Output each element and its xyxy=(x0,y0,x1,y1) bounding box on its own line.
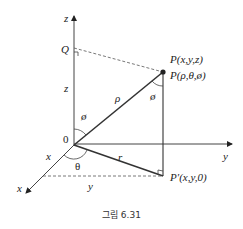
r-label: r xyxy=(118,151,123,163)
origin-label: 0 xyxy=(63,133,69,145)
figure-caption: 그림 6.31 xyxy=(102,209,141,220)
phi-origin-label: ø xyxy=(80,110,87,122)
phi-p-label: ø xyxy=(149,90,156,102)
right-angle-q xyxy=(74,52,78,56)
x-axis-label: x xyxy=(16,182,22,194)
q-to-p-dashed xyxy=(74,48,163,72)
z-height-label: z xyxy=(63,82,69,94)
y-length-label: y xyxy=(87,180,93,192)
rho-segment xyxy=(74,72,163,145)
p-spherical-label: P(ρ,θ,ø) xyxy=(169,69,206,82)
phi-arc-p xyxy=(152,81,163,86)
point-p xyxy=(160,69,165,74)
q-label: Q xyxy=(61,43,69,55)
p-cartesian-label: P(x,y,z) xyxy=(169,53,203,66)
rho-label: ρ xyxy=(114,92,120,104)
spherical-coordinates-diagram: z Q z P(x,y,z) P(ρ,θ,ø) ρ ø ø 0 x θ r y … xyxy=(0,0,243,229)
pprime-label: P′(x,y,0) xyxy=(169,171,207,184)
phi-arc-origin xyxy=(74,129,86,135)
y-axis-label: y xyxy=(222,150,228,162)
z-axis-label: z xyxy=(63,12,69,24)
x-length-label: x xyxy=(45,150,51,162)
theta-label: θ xyxy=(75,160,80,172)
